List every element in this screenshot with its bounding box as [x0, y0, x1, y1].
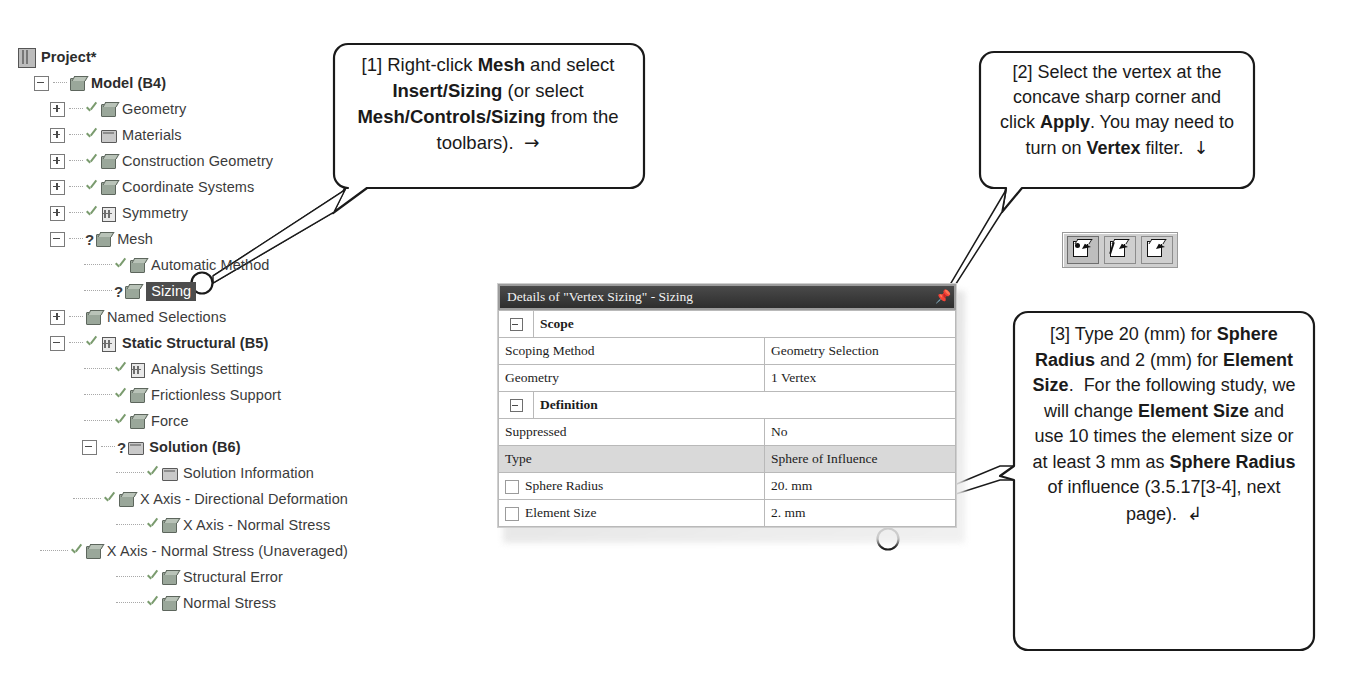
- tree-item-x-axis-normal-stress-unaveraged[interactable]: X Axis - Normal Stress (Unaveraged): [18, 538, 348, 564]
- tree-item-model-b4[interactable]: Model (B4): [18, 70, 348, 96]
- tree-item-analysis-settings[interactable]: Analysis Settings: [18, 356, 348, 382]
- tree-item-label: Symmetry: [122, 205, 188, 221]
- tree-item-symmetry[interactable]: Symmetry: [18, 200, 348, 226]
- tree-connector: [116, 576, 144, 578]
- edge-filter-icon[interactable]: [1104, 236, 1136, 264]
- tree-connector: [40, 550, 68, 552]
- tree-connector: [84, 420, 112, 422]
- symmetry-icon: [100, 205, 118, 222]
- group-expander-cell[interactable]: [499, 311, 534, 338]
- tree-item-mesh[interactable]: ?Mesh: [18, 226, 348, 252]
- tree-expand-icon[interactable]: [50, 180, 65, 195]
- tree-item-static-structural-b5[interactable]: Static Structural (B5): [18, 330, 348, 356]
- details-row[interactable]: Definition: [499, 392, 956, 419]
- tree-item-label: Automatic Method: [151, 257, 269, 273]
- tree-expand-icon[interactable]: [50, 206, 65, 221]
- tree-item-automatic-method[interactable]: Automatic Method: [18, 252, 348, 278]
- tree-item-materials[interactable]: Materials: [18, 122, 348, 148]
- result-cube-icon: [161, 517, 179, 534]
- panel-inner: Details of "Vertex Sizing" - Sizing 📌 Sc…: [497, 283, 957, 528]
- tree-item-frictionless-support[interactable]: Frictionless Support: [18, 382, 348, 408]
- field-label-cell: Element Size: [499, 500, 765, 527]
- tree-item-x-axis-directional-deformation[interactable]: X Axis - Directional Deformation: [18, 486, 348, 512]
- ansys-outline-tree[interactable]: Project*Model (B4)GeometryMaterialsConst…: [18, 44, 348, 616]
- result-cube-icon: [85, 543, 103, 560]
- static-structural-icon: [100, 335, 118, 352]
- mesh-icon: [95, 231, 113, 248]
- tree-item-named-selections[interactable]: Named Selections: [18, 304, 348, 330]
- field-value[interactable]: 20. mm: [765, 473, 956, 500]
- page-root: Project*Model (B4)GeometryMaterialsConst…: [0, 0, 1363, 685]
- tree-item-label: Construction Geometry: [122, 153, 273, 169]
- group-expander-cell[interactable]: [499, 392, 534, 419]
- tree-item-label: Model (B4): [91, 75, 166, 91]
- tree-item-solution-b6[interactable]: ?Solution (B6): [18, 434, 348, 460]
- tree-item-structural-error[interactable]: Structural Error: [18, 564, 348, 590]
- details-row[interactable]: Scoping MethodGeometry Selection: [499, 338, 956, 365]
- method-icon: [129, 257, 147, 274]
- details-row[interactable]: SuppressedNo: [499, 419, 956, 446]
- details-row[interactable]: Element Size2. mm: [499, 500, 956, 527]
- check-icon: [85, 180, 99, 194]
- tree-connector: [116, 472, 144, 474]
- tree-item-sizing[interactable]: ?Sizing: [18, 278, 348, 304]
- field-label-cell: Type: [499, 446, 765, 473]
- tree-item-force[interactable]: Force: [18, 408, 348, 434]
- tree-item-geometry[interactable]: Geometry: [18, 96, 348, 122]
- tree-expand-icon[interactable]: [50, 128, 65, 143]
- tree-item-solution-information[interactable]: Solution Information: [18, 460, 348, 486]
- tree-item-x-axis-normal-stress[interactable]: X Axis - Normal Stress: [18, 512, 348, 538]
- field-label-cell: Suppressed: [499, 419, 765, 446]
- vertex-filter-icon[interactable]: [1067, 236, 1099, 264]
- tree-collapse-icon[interactable]: [50, 336, 65, 351]
- selection-filter-toolbar[interactable]: [1062, 232, 1178, 268]
- group-collapse-icon[interactable]: [510, 399, 523, 412]
- pin-icon[interactable]: 📌: [935, 289, 947, 304]
- tree-item-construction-geometry[interactable]: Construction Geometry: [18, 148, 348, 174]
- group-collapse-icon[interactable]: [510, 318, 523, 331]
- check-icon: [114, 258, 128, 272]
- details-panel[interactable]: Details of "Vertex Sizing" - Sizing 📌 Sc…: [497, 283, 957, 528]
- details-row[interactable]: TypeSphere of Influence: [499, 446, 956, 473]
- details-row[interactable]: Geometry1 Vertex: [499, 365, 956, 392]
- vertex-dot: [1075, 243, 1080, 248]
- tree-connector: [69, 160, 83, 162]
- tree-item-label: Analysis Settings: [151, 361, 263, 377]
- tree-expand-icon[interactable]: [50, 154, 65, 169]
- panel-title-wrap: Details of "Vertex Sizing" - Sizing 📌: [498, 284, 956, 310]
- tree-item-label: Solution (B6): [149, 439, 241, 455]
- group-label: Definition: [534, 392, 956, 419]
- coordinate-systems-icon: [100, 179, 118, 196]
- question-mark-icon: ?: [117, 439, 126, 456]
- tree-item-label: Normal Stress: [183, 595, 276, 611]
- tree-expand-icon[interactable]: [50, 102, 65, 117]
- tree-item-label: Geometry: [122, 101, 186, 117]
- tree-connector: [69, 316, 83, 318]
- tree-item-label: Sizing: [146, 282, 196, 301]
- field-value[interactable]: 1 Vertex: [765, 365, 956, 392]
- details-row[interactable]: Sphere Radius20. mm: [499, 473, 956, 500]
- tree-collapse-icon[interactable]: [82, 440, 97, 455]
- tree-expand-icon[interactable]: [50, 310, 65, 325]
- tree-connector: [69, 212, 83, 214]
- tree-item-coordinate-systems[interactable]: Coordinate Systems: [18, 174, 348, 200]
- field-value[interactable]: No: [765, 419, 956, 446]
- field-checkbox[interactable]: [505, 507, 519, 521]
- geometry-cube-icon: [100, 101, 118, 118]
- panel-title-bar: Details of "Vertex Sizing" - Sizing 📌: [500, 286, 954, 308]
- details-row[interactable]: Scope: [499, 311, 956, 338]
- face-filter-icon[interactable]: [1141, 236, 1173, 264]
- callout-3-text: [3] Type 20 (mm) for Sphere Radius and 2…: [1030, 322, 1298, 527]
- field-value[interactable]: Geometry Selection: [765, 338, 956, 365]
- field-checkbox[interactable]: [505, 480, 519, 494]
- tree-item-normal-stress[interactable]: Normal Stress: [18, 590, 348, 616]
- tree-item-project[interactable]: Project*: [18, 44, 348, 70]
- details-table[interactable]: ScopeScoping MethodGeometry SelectionGeo…: [498, 310, 956, 527]
- tree-collapse-icon[interactable]: [34, 76, 49, 91]
- field-value[interactable]: 2. mm: [765, 500, 956, 527]
- tree-connector: [69, 342, 83, 344]
- tree-collapse-icon[interactable]: [50, 232, 65, 247]
- field-value[interactable]: Sphere of Influence: [765, 446, 956, 473]
- tree-connector: [84, 368, 112, 370]
- tree-item-label: Solution Information: [183, 465, 314, 481]
